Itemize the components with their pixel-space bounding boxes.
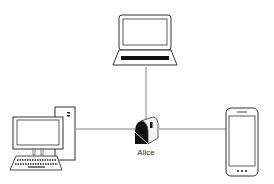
mailbox-icon[interactable] (135, 117, 158, 144)
desktop-computer-icon[interactable] (10, 107, 75, 170)
mailbox-label: Alice (131, 148, 161, 157)
smartphone-icon[interactable] (226, 108, 258, 176)
laptop-icon[interactable] (113, 15, 177, 65)
